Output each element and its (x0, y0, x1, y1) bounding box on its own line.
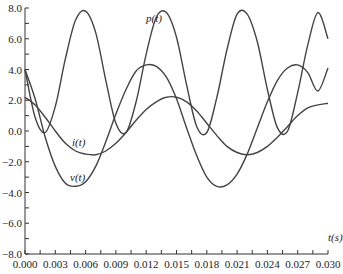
y-tick-label: 0.0 (8, 125, 22, 137)
x-tick-label: 0.027 (285, 258, 310, 270)
x-tick-label: 0.021 (225, 258, 250, 270)
y-tick-label: −4.0 (2, 187, 22, 199)
y-tick-label: 4.0 (8, 64, 22, 76)
i-curve-label: i(t) (72, 136, 86, 149)
x-tick-label: 0.012 (134, 258, 159, 270)
x-tick-label: 0.009 (104, 258, 129, 270)
y-axis: 8.06.04.02.00.0−2.0−4.0−6.0−8.0 (2, 2, 29, 260)
v-curve-label: v(t) (70, 171, 86, 184)
x-tick-label: 0.000 (13, 258, 38, 270)
i-curve (25, 97, 328, 155)
x-tick-label: 0.030 (316, 258, 341, 270)
x-axis-title: t(s) (328, 231, 343, 244)
y-tick-label: −2.0 (2, 156, 22, 168)
x-tick-label: 0.003 (43, 258, 68, 270)
y-tick-label: −6.0 (2, 217, 22, 229)
p-curve-label: p(t) (145, 12, 162, 25)
x-tick-label: 0.006 (73, 258, 98, 270)
y-tick-label: 2.0 (8, 94, 22, 106)
chart: 8.06.04.02.00.0−2.0−4.0−6.0−8.0 0.0000.0… (0, 0, 343, 274)
x-tick-label: 0.024 (255, 258, 280, 270)
x-axis: 0.0000.0030.0060.0090.0120.0150.0180.021… (13, 250, 341, 270)
y-tick-label: 6.0 (8, 33, 22, 45)
x-tick-label: 0.015 (164, 258, 189, 270)
x-tick-label: 0.018 (194, 258, 219, 270)
y-tick-label: 8.0 (8, 2, 22, 14)
curves (25, 10, 328, 187)
v-curve (25, 64, 328, 186)
